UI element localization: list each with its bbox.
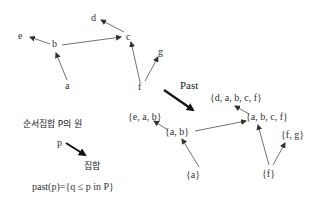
set-a: {a} [186, 170, 200, 180]
legend-formula: past(p)={q ≤ p in P} [32, 182, 114, 192]
past-label: Past [180, 80, 198, 91]
legend-set-label: 집합 [84, 162, 100, 171]
node-a: a [65, 81, 69, 91]
set-ab: {a, b} [165, 127, 189, 137]
edge-f-abcf [258, 125, 269, 165]
edge-ab-abcf [195, 121, 246, 131]
set-dabcf: {d, a, b, c, f} [210, 93, 262, 103]
edge-a-b [56, 53, 67, 80]
edge-b-e [30, 37, 50, 44]
set-abcf: {a, b, c, f} [246, 112, 288, 122]
edge-f-c [131, 42, 140, 82]
node-f: f [138, 82, 141, 92]
set-eab: {e, a, b} [128, 112, 161, 122]
set-f: {f} [262, 169, 275, 179]
node-c: c [126, 32, 130, 42]
set-fg: {f, g} [281, 130, 304, 140]
edge-f-g [145, 57, 158, 81]
poset-edges [30, 20, 158, 82]
diagram-canvas: a b c d e f g Past {d, a, b, c, f} {a, b… [0, 0, 320, 209]
edge-b-c [62, 37, 121, 45]
legend-element-label: 순서집합 P의 원 [23, 120, 82, 129]
legend-p-label: p [57, 138, 62, 148]
past-arrow-icon [164, 90, 193, 110]
edge-c-d [101, 20, 124, 32]
node-e: e [18, 31, 22, 41]
legend-arrow-icon [66, 143, 85, 155]
node-b: b [52, 39, 57, 49]
edge-f-fg [273, 143, 285, 165]
node-g: g [158, 47, 163, 57]
node-d: d [91, 13, 96, 23]
edge-a-ab [182, 139, 199, 167]
